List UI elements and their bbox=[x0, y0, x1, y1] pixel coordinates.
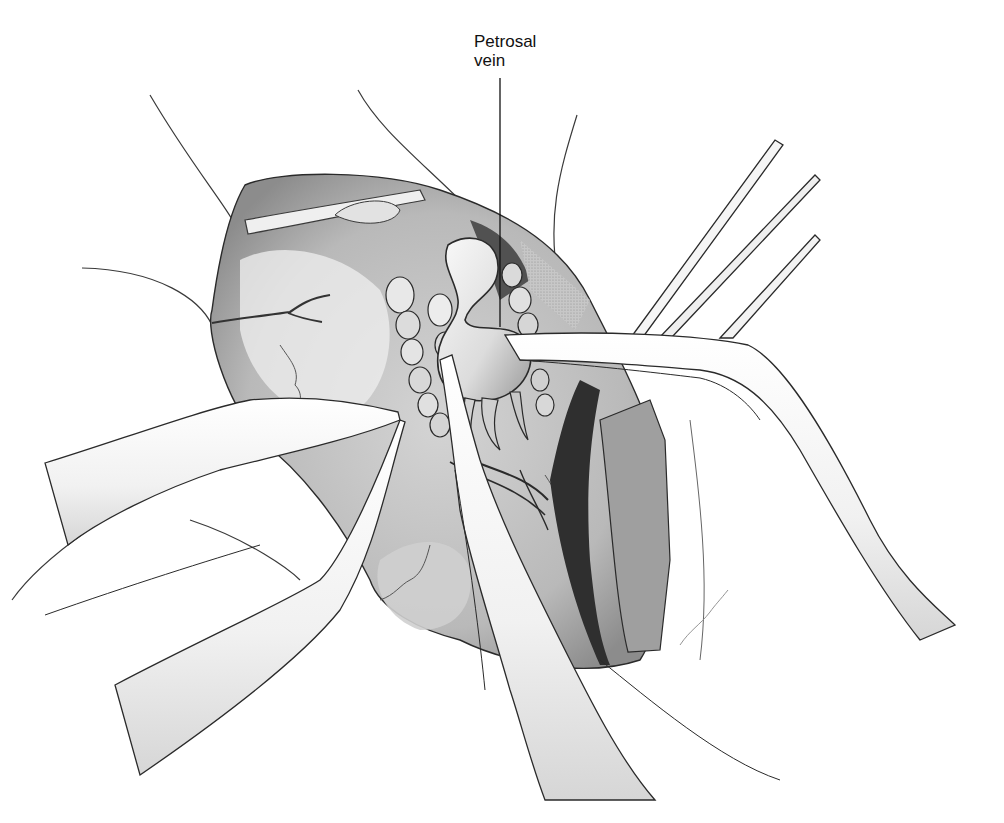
label-line-2: vein bbox=[474, 51, 536, 70]
petrosal-vein-label: Petrosal vein bbox=[474, 32, 536, 70]
label-line-1: Petrosal bbox=[474, 32, 536, 51]
surgical-illustration bbox=[0, 0, 1004, 823]
